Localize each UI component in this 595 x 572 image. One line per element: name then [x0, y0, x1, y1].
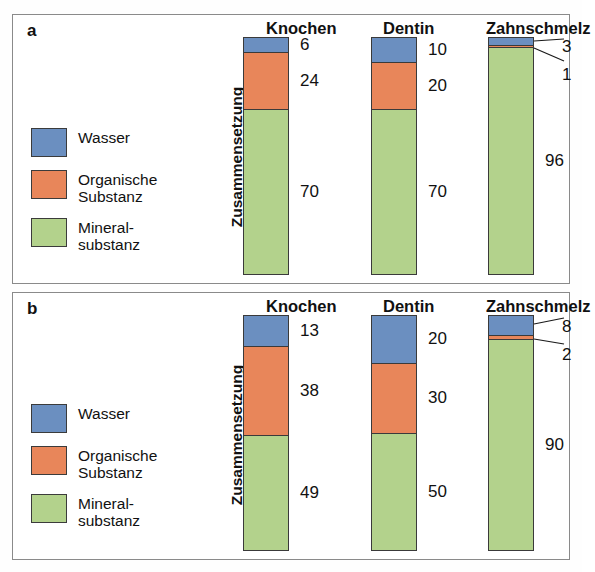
bar-dentin-a: 10 20 70 — [371, 37, 417, 275]
value-mineral-knochen-a: 70 — [300, 182, 319, 202]
value-water-zahnschmelz-b: 8 — [562, 317, 571, 337]
legend-swatch-water-icon — [31, 128, 67, 157]
segment-organic-dentin-a: 20 — [372, 62, 416, 109]
bar-zahnschmelz-a: 96 — [488, 37, 534, 275]
bar-group-zahnschmelz-b: Zahnschmelz 90 8 2 — [488, 293, 595, 559]
bar-dentin-b: 20 30 50 — [371, 315, 417, 551]
legend-label-mineral: Mineral- substanz — [78, 217, 140, 253]
segment-mineral-knochen-b: 49 — [244, 435, 288, 550]
bar-title-dentin-a: Dentin — [383, 19, 434, 38]
panel-a: a Wasser Organische Substanz Mineral- su… — [12, 14, 570, 284]
legend-item-organic: Organische Substanz — [31, 169, 206, 205]
segment-organic-knochen-a: 24 — [244, 52, 288, 109]
bar-title-knochen-b: Knochen — [266, 297, 337, 316]
value-water-knochen-a: 6 — [300, 35, 309, 55]
value-organic-knochen-a: 24 — [300, 71, 319, 91]
panel-b-letter: b — [27, 299, 37, 319]
segment-mineral-dentin-a: 70 — [372, 109, 416, 274]
legend-label-mineral-b: Mineral- substanz — [78, 493, 140, 529]
bar-group-dentin-b: Dentin 20 30 50 — [371, 293, 481, 559]
value-organic-zahnschmelz-b: 2 — [562, 345, 571, 365]
segment-mineral-zahnschmelz-b: 90 — [489, 339, 533, 550]
legend-panel-b: Wasser Organische Substanz Mineral- subs… — [31, 403, 206, 529]
legend-item-water: Wasser — [31, 127, 206, 157]
value-water-dentin-b: 20 — [428, 329, 447, 349]
segment-water-knochen-b: 13 — [244, 316, 288, 346]
value-mineral-dentin-b: 50 — [428, 482, 447, 502]
legend-label-organic-b: Organische Substanz — [78, 445, 157, 481]
value-mineral-zahnschmelz-a: 96 — [545, 151, 564, 171]
segment-mineral-dentin-b: 50 — [372, 433, 416, 550]
segment-water-dentin-b: 20 — [372, 316, 416, 363]
segment-water-zahnschmelz-b — [489, 316, 533, 335]
legend-item-organic-b: Organische Substanz — [31, 445, 206, 481]
bar-title-zahnschmelz-b: Zahnschmelz — [486, 297, 591, 316]
segment-organic-dentin-b: 30 — [372, 363, 416, 433]
legend-panel-a: Wasser Organische Substanz Mineral- subs… — [31, 127, 206, 253]
legend-label-organic: Organische Substanz — [78, 169, 157, 205]
bar-title-dentin-b: Dentin — [383, 297, 434, 316]
value-water-dentin-a: 10 — [428, 40, 447, 60]
value-water-zahnschmelz-a: 3 — [562, 37, 571, 57]
bar-group-knochen-b: Knochen 13 38 49 — [243, 293, 363, 559]
legend-item-water-b: Wasser — [31, 403, 206, 433]
segment-organic-knochen-b: 38 — [244, 346, 288, 435]
value-water-knochen-b: 13 — [300, 321, 319, 341]
value-mineral-knochen-b: 49 — [300, 483, 319, 503]
legend-swatch-mineral-icon-b — [31, 494, 67, 523]
value-organic-knochen-b: 38 — [300, 381, 319, 401]
legend-item-mineral-b: Mineral- substanz — [31, 493, 206, 529]
value-organic-dentin-a: 20 — [428, 76, 447, 96]
legend-swatch-organic-icon-b — [31, 446, 67, 475]
segment-water-knochen-a: 6 — [244, 38, 288, 52]
value-mineral-dentin-a: 70 — [428, 182, 447, 202]
bar-title-zahnschmelz-a: Zahnschmelz — [486, 19, 591, 38]
legend-swatch-mineral-icon — [31, 218, 67, 247]
segment-water-zahnschmelz-a — [489, 38, 533, 45]
bar-knochen-b: 13 38 49 — [243, 315, 289, 551]
legend-swatch-water-icon-b — [31, 404, 67, 433]
panel-b: b Wasser Organische Substanz Mineral- su… — [12, 292, 570, 560]
segment-water-dentin-a: 10 — [372, 38, 416, 62]
bar-group-zahnschmelz-a: Zahnschmelz 96 3 1 — [488, 15, 595, 283]
legend-swatch-organic-icon — [31, 170, 67, 199]
legend-label-water: Wasser — [78, 127, 130, 146]
bar-zahnschmelz-b: 90 — [488, 315, 534, 551]
value-organic-dentin-b: 30 — [428, 388, 447, 408]
legend-label-water-b: Wasser — [78, 403, 130, 422]
panel-a-letter: a — [27, 21, 36, 41]
value-organic-zahnschmelz-a: 1 — [562, 65, 571, 85]
value-mineral-zahnschmelz-b: 90 — [545, 435, 564, 455]
segment-mineral-zahnschmelz-a: 96 — [489, 47, 533, 274]
legend-item-mineral: Mineral- substanz — [31, 217, 206, 253]
bar-group-dentin-a: Dentin 10 20 70 — [371, 15, 481, 283]
